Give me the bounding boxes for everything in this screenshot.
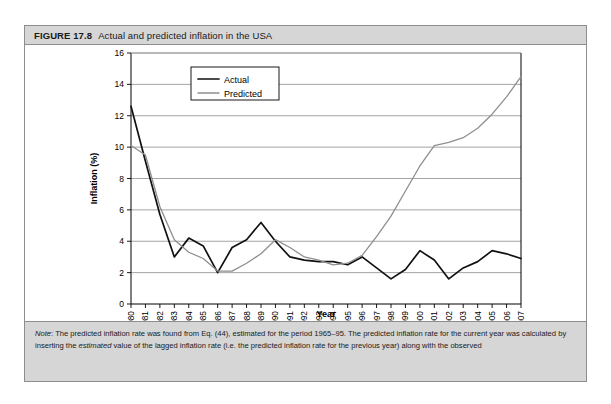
x-axis-title: Year: [316, 309, 336, 319]
figure-container: FIGURE 17.8 Actual and predicted inflati…: [24, 25, 587, 382]
note-label: Note: [35, 329, 51, 338]
x-axis-group: 1980198119821983198419851986198719881989…: [126, 53, 526, 322]
series-line-predicted: [131, 77, 521, 272]
note-emphasis: estimated: [78, 341, 111, 350]
y-tick-label: 16: [115, 48, 125, 58]
legend-label-actual: Actual: [224, 75, 249, 85]
note-line-1: : The predicted inflation rate was found…: [51, 329, 520, 338]
y-axis-title: Inflation (%): [89, 153, 99, 205]
figure-note: Note: The predicted inflation rate was f…: [25, 321, 586, 381]
y-tick-label: 12: [115, 111, 125, 121]
data-series-group: [131, 77, 521, 279]
y-tick-label: 6: [119, 205, 124, 215]
axis-titles-group: YearInflation (%): [89, 153, 336, 319]
figure-number: FIGURE 17.8: [34, 30, 92, 41]
chart-area: 0246810121416 19801981198219831984198519…: [25, 45, 586, 322]
note-line-2c: value of the lagged inflation rate (i.e.…: [111, 341, 481, 350]
y-tick-label: 8: [119, 174, 124, 184]
gridlines-group: [131, 53, 521, 273]
y-tick-label: 4: [119, 236, 124, 246]
y-tick-label: 14: [115, 79, 125, 89]
chart-legend: ActualPredicted: [191, 67, 279, 100]
figure-header: FIGURE 17.8 Actual and predicted inflati…: [25, 26, 586, 45]
y-tick-label: 0: [119, 299, 124, 309]
plot-wrapper: 0246810121416 19801981198219831984198519…: [25, 45, 586, 322]
y-axis-group: 0246810121416: [115, 48, 131, 309]
legend-label-predicted: Predicted: [224, 89, 262, 99]
y-tick-label: 2: [119, 268, 124, 278]
y-tick-label: 10: [115, 142, 125, 152]
figure-title: Actual and predicted inflation in the US…: [98, 30, 272, 41]
inflation-line-chart: 0246810121416 19801981198219831984198519…: [25, 45, 586, 322]
